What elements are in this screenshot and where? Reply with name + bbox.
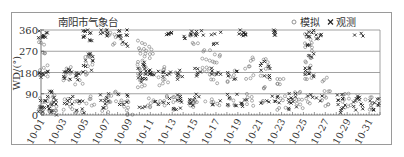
x-tick-label: 10-15: [177, 117, 200, 146]
x-tick-label: 10-09: [112, 117, 135, 146]
legend-x-icon: [328, 20, 333, 25]
plot-area: 09018027036010-0110-0310-0510-0710-0910-…: [0, 0, 404, 157]
x-tick-label: 10-11: [134, 117, 157, 146]
x-tick-label: 10-17: [199, 117, 222, 146]
x-tick-label: 10-29: [330, 117, 353, 146]
legend-label-simulated: 模拟: [300, 16, 320, 28]
legend-circle-icon: [292, 20, 296, 24]
legend: 模拟观测: [292, 16, 356, 28]
x-tick-label: 10-13: [155, 117, 178, 146]
x-tick-label: 10-25: [287, 117, 310, 146]
x-tick-label: 10-31: [352, 117, 375, 146]
x-tick-label: 10-27: [309, 117, 332, 146]
x-tick-label: 10-01: [24, 117, 47, 146]
chart-title: 南阳市气象台: [58, 16, 118, 28]
y-tick-label: 360: [19, 25, 38, 36]
legend-label-observed: 观测: [336, 16, 356, 28]
x-tick-label: 10-23: [265, 117, 288, 146]
y-tick-label: 270: [19, 46, 38, 57]
wind-direction-chart: 09018027036010-0110-0310-0510-0710-0910-…: [0, 0, 404, 157]
y-axis-label: WD/(°): [11, 56, 22, 91]
x-tick-label: 10-05: [68, 117, 91, 146]
x-tick-label: 10-21: [243, 117, 266, 146]
y-tick-label: 90: [25, 89, 38, 100]
x-tick-label: 10-07: [90, 117, 113, 146]
x-tick-label: 10-19: [221, 117, 244, 146]
x-tick-label: 10-03: [46, 117, 69, 146]
